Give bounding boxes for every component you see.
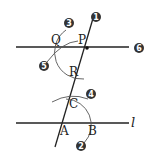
svg-text:4: 4 [88,90,94,99]
svg-text:2: 2 [78,142,84,151]
label-c: C [69,97,78,111]
svg-text:3: 3 [66,19,72,28]
step-badge-3: 3 [64,18,74,28]
svg-text:5: 5 [41,62,47,71]
step-badge-6: 6 [134,43,144,53]
label-q: Q [51,33,61,47]
label-line-l: l [131,115,135,130]
label-p: P [78,33,86,47]
svg-text:1: 1 [93,13,99,22]
step-badge-1: 1 [91,12,101,22]
label-a: A [59,124,69,138]
parallel-construction-diagram: P Q R A B C l 1 2 3 4 5 6 [0,0,151,164]
label-b: B [88,124,97,138]
step-badge-4: 4 [86,89,96,99]
svg-text:6: 6 [136,44,142,53]
step-badge-2: 2 [76,141,86,151]
label-r: R [69,65,79,79]
step-badge-5: 5 [39,61,49,71]
